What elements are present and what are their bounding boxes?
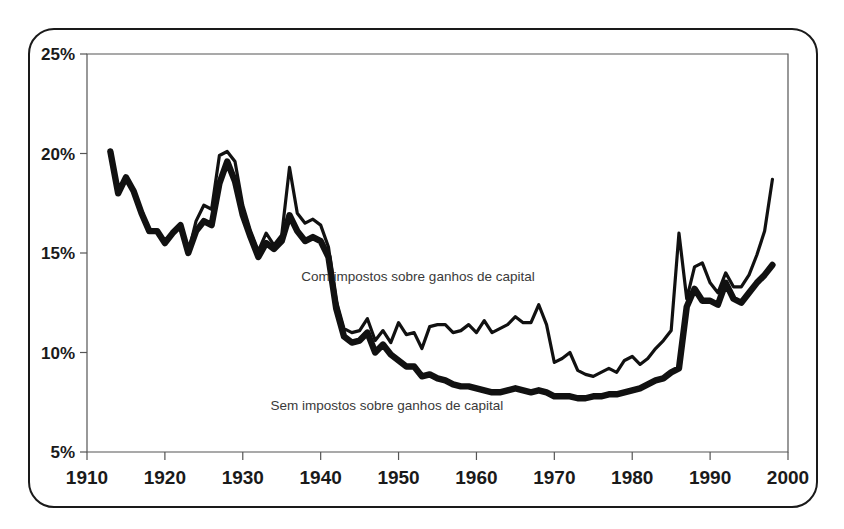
top-caption: de 1% mais ricos [0,0,844,6]
top-caption-text: de 1% mais ricos [42,0,844,3]
chart-frame [28,28,818,508]
